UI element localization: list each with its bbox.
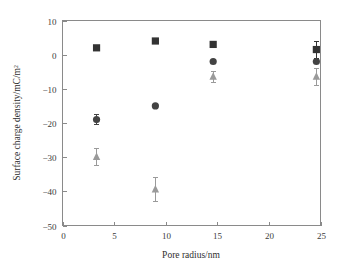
x-tick-label: 20: [265, 231, 275, 241]
marker-circle: [313, 58, 320, 65]
marker-circle: [93, 116, 100, 123]
y-axis-ticks: [63, 22, 67, 227]
series-circles: [93, 58, 320, 125]
y-tick-label: 10: [48, 17, 58, 27]
x-tick-label: 10: [162, 231, 172, 241]
marker-square: [210, 41, 217, 48]
marker-square: [313, 46, 320, 53]
x-axis-title: Pore radius/nm: [162, 250, 220, 260]
scatter-plot: 0510152025 100−10−20−30−40−50 Pore radiu…: [0, 0, 349, 268]
x-tick-label: 15: [213, 231, 223, 241]
series-squares: [93, 37, 320, 58]
plot-frame: [63, 21, 321, 226]
y-axis-title: Surface charge density/mC/m²: [12, 65, 22, 181]
marker-triangle: [313, 72, 320, 79]
marker-triangle: [209, 72, 216, 79]
x-tick-label: 25: [317, 231, 327, 241]
series-triangles: [93, 68, 320, 201]
marker-circle: [210, 58, 217, 65]
x-tick-label: 5: [112, 231, 117, 241]
y-tick-label: −30: [42, 153, 57, 163]
y-tick-label: −50: [42, 222, 57, 232]
y-tick-label: 0: [52, 51, 57, 61]
x-tick-label: 0: [61, 231, 66, 241]
marker-square: [152, 37, 159, 44]
y-tick-label: −10: [42, 85, 57, 95]
marker-square: [93, 44, 100, 51]
y-tick-label: −40: [42, 187, 57, 197]
chart-figure: 0510152025 100−10−20−30−40−50 Pore radiu…: [0, 0, 349, 268]
x-axis-ticks: [64, 222, 322, 226]
x-axis-tick-labels: 0510152025: [61, 231, 326, 241]
y-tick-label: −20: [42, 119, 57, 129]
y-axis-tick-labels: 100−10−20−30−40−50: [42, 17, 57, 232]
marker-circle: [152, 102, 159, 109]
data-points-layer: [93, 37, 320, 201]
marker-triangle: [152, 185, 159, 192]
marker-triangle: [93, 153, 100, 160]
